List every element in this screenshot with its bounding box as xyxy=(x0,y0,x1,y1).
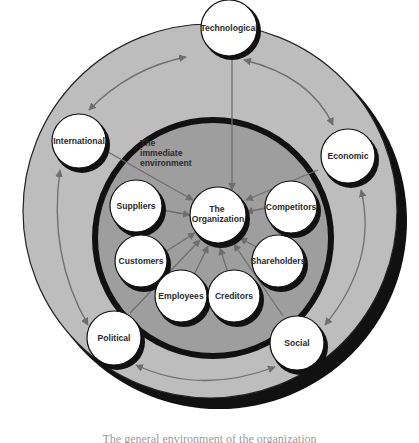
node-label: Customers xyxy=(119,256,164,266)
organization-environment-diagram: The immediate environment Technological … xyxy=(0,0,419,443)
node-label: Competitors xyxy=(266,202,317,212)
node-label: International xyxy=(53,136,105,146)
node-label: Creditors xyxy=(215,291,253,301)
node-label: Political xyxy=(98,333,131,343)
node-label: Employees xyxy=(158,291,204,301)
node-label: Social xyxy=(284,338,309,348)
node-label: Technological xyxy=(200,23,257,33)
node-label: Economic xyxy=(327,151,368,161)
node-label: Shareholders xyxy=(251,256,306,266)
figure-caption: The general environment of the organizat… xyxy=(0,433,419,443)
node-label: Suppliers xyxy=(116,201,155,211)
